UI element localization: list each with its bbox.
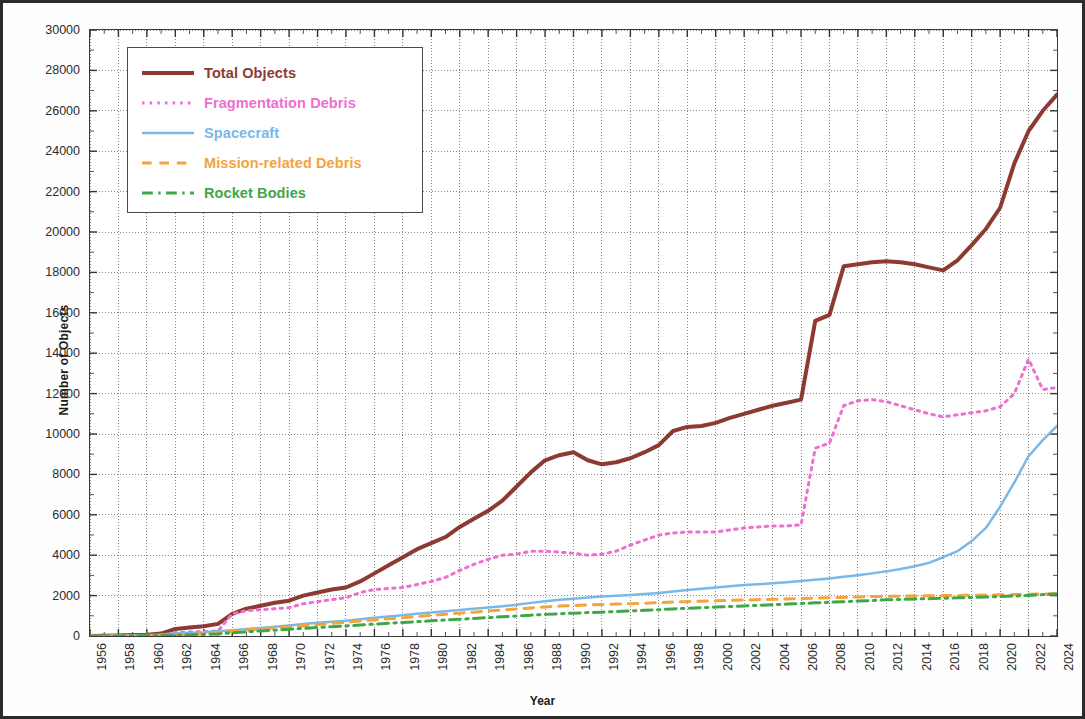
legend-item-rocket-bodies[interactable]: Rocket Bodies <box>140 178 422 208</box>
legend-label: Fragmentation Debris <box>204 95 356 111</box>
x-tick-label: 1992 <box>607 643 621 671</box>
x-tick-label: 1960 <box>152 643 166 671</box>
x-tick-label: 2008 <box>834 643 848 671</box>
x-tick-label: 2002 <box>749 643 763 671</box>
legend-item-fragmentation-debris[interactable]: Fragmentation Debris <box>140 88 422 118</box>
x-tick-label: 1980 <box>436 643 450 671</box>
x-tick-label: 1998 <box>692 643 706 671</box>
x-tick-label: 1968 <box>266 643 280 671</box>
x-tick-label: 1986 <box>522 643 536 671</box>
y-tick-label: 4000 <box>3 548 80 562</box>
y-tick-label: 18000 <box>3 265 80 279</box>
y-tick-label: 30000 <box>3 23 80 37</box>
x-tick-label: 1964 <box>209 643 223 671</box>
x-tick-label: 1966 <box>237 643 251 671</box>
x-tick-label: 2018 <box>977 643 991 671</box>
y-tick-label: 24000 <box>3 144 80 158</box>
x-tick-label: 1972 <box>323 643 337 671</box>
x-tick-label: 2014 <box>920 643 934 671</box>
x-tick-label: 2012 <box>891 643 905 671</box>
legend-label: Rocket Bodies <box>204 185 306 201</box>
y-tick-label: 6000 <box>3 508 80 522</box>
x-tick-label: 2020 <box>1005 643 1019 671</box>
legend-swatch-icon <box>140 186 196 200</box>
x-tick-label: 1976 <box>379 643 393 671</box>
y-tick-label: 28000 <box>3 63 80 77</box>
x-tick-label: 1982 <box>465 643 479 671</box>
series-line-spacecraft <box>90 426 1057 636</box>
x-tick-label: 2010 <box>863 643 877 671</box>
x-tick-label: 2022 <box>1034 643 1048 671</box>
y-tick-label: 10000 <box>3 427 80 441</box>
x-tick-label: 1994 <box>635 643 649 671</box>
x-tick-label: 1988 <box>550 643 564 671</box>
legend-item-total-objects[interactable]: Total Objects <box>140 58 422 88</box>
legend-swatch-icon <box>140 96 196 110</box>
x-tick-label: 2006 <box>806 643 820 671</box>
y-tick-label: 22000 <box>3 185 80 199</box>
x-axis-title: Year <box>3 694 1082 708</box>
x-tick-label: 1978 <box>408 643 422 671</box>
y-tick-label: 0 <box>3 629 80 643</box>
legend-item-spacecraft[interactable]: Spacecraft <box>140 118 422 148</box>
x-tick-label: 1962 <box>180 643 194 671</box>
y-tick-label: 26000 <box>3 104 80 118</box>
legend-swatch-icon <box>140 156 196 170</box>
y-tick-label: 12000 <box>3 387 80 401</box>
x-tick-label: 2000 <box>721 643 735 671</box>
x-tick-label: 1984 <box>493 643 507 671</box>
x-tick-label: 1958 <box>123 643 137 671</box>
x-tick-label: 1996 <box>664 643 678 671</box>
x-tick-label: 1990 <box>579 643 593 671</box>
legend-swatch-icon <box>140 126 196 140</box>
legend-label: Total Objects <box>204 65 296 81</box>
y-tick-label: 14000 <box>3 346 80 360</box>
y-tick-label: 16000 <box>3 306 80 320</box>
x-tick-label: 1970 <box>294 643 308 671</box>
y-tick-label: 20000 <box>3 225 80 239</box>
chart-legend: Total ObjectsFragmentation DebrisSpacecr… <box>127 47 423 213</box>
legend-swatch-icon <box>140 66 196 80</box>
y-tick-label: 2000 <box>3 589 80 603</box>
x-tick-label: 1956 <box>95 643 109 671</box>
y-tick-label: 8000 <box>3 467 80 481</box>
chart-figure: Number of Objects Year 02000400060008000… <box>0 0 1085 719</box>
x-tick-label: 2004 <box>778 643 792 671</box>
legend-item-mission-related-debris[interactable]: Mission-related Debris <box>140 148 422 178</box>
x-tick-label: 2024 <box>1062 643 1076 671</box>
legend-label: Spacecraft <box>204 125 279 141</box>
x-tick-label: 2016 <box>948 643 962 671</box>
legend-label: Mission-related Debris <box>204 155 362 171</box>
x-tick-label: 1974 <box>351 643 365 671</box>
